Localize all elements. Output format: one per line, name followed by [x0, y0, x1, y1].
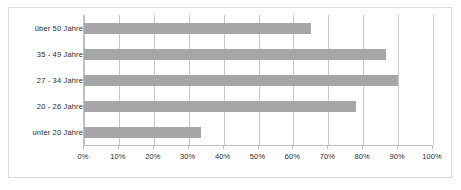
axis-tick	[327, 145, 328, 149]
bar-slot	[84, 119, 433, 145]
chart-frame: über 50 Jahre 35 - 49 Jahre 27 - 34 Jahr…	[8, 7, 452, 178]
axis-tick-label: 50%	[250, 152, 265, 161]
bar	[84, 49, 386, 60]
axis-tick	[188, 145, 189, 149]
axis-tick	[292, 145, 293, 149]
bar	[84, 101, 356, 112]
bar-slot	[84, 41, 433, 67]
axis-tick	[223, 145, 224, 149]
axis-tick-label: 70%	[320, 152, 335, 161]
axis-tick-label: 10%	[110, 152, 125, 161]
axis-tick-label: 60%	[285, 152, 300, 161]
bar	[84, 23, 311, 34]
axis-tick	[153, 145, 154, 149]
plot-area	[83, 15, 433, 145]
axis-tick	[397, 145, 398, 149]
axis-tick-label: 90%	[389, 152, 404, 161]
axis-tick	[432, 145, 433, 149]
axis-tick	[362, 145, 363, 149]
axis-tick	[83, 145, 84, 149]
axis-tick	[258, 145, 259, 149]
axis-tick-label: 80%	[355, 152, 370, 161]
category-label: unter 20 Jahre	[15, 119, 83, 145]
axis-tick	[118, 145, 119, 149]
axis-tick-label: 100%	[422, 152, 442, 161]
category-label: 27 - 34 Jahre	[15, 67, 83, 93]
bar-slot	[84, 93, 433, 119]
category-label: 20 - 26 Jahre	[15, 93, 83, 119]
value-axis: 0%10%20%30%40%50%60%70%80%90%100%	[83, 145, 433, 171]
bars-layer	[84, 15, 433, 145]
axis-tick-label: 40%	[215, 152, 230, 161]
bar	[84, 75, 398, 86]
gridline	[433, 15, 434, 145]
category-axis: über 50 Jahre 35 - 49 Jahre 27 - 34 Jahr…	[15, 15, 83, 145]
bar	[84, 127, 201, 138]
bar-slot	[84, 67, 433, 93]
bar-slot	[84, 15, 433, 41]
category-label: über 50 Jahre	[15, 15, 83, 41]
category-label: 35 - 49 Jahre	[15, 41, 83, 67]
axis-tick-label: 30%	[180, 152, 195, 161]
axis-tick-label: 20%	[145, 152, 160, 161]
axis-tick-label: 0%	[77, 152, 88, 161]
